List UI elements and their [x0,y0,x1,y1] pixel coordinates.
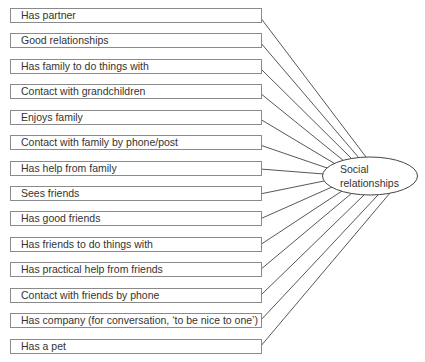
item-label: Has partner [21,9,76,22]
connector-line [260,145,330,169]
item-label: Has good friends [21,212,100,225]
item-label: Has friends to do things with [21,238,153,251]
item-label: Has help from family [21,162,117,175]
connector-line [260,191,342,245]
connector-line [260,181,324,194]
item-label: Sees friends [21,187,79,200]
item-box-has-partner: Has partner [10,8,262,23]
item-box-good-friends: Has good friends [10,211,262,226]
item-box-family-help: Has help from family [10,161,262,176]
connector-line [260,169,324,174]
item-box-grandchildren: Contact with grandchildren [10,84,262,99]
center-label-line2: relationships [340,177,399,190]
connector-line [260,193,352,270]
connector-line [260,68,352,159]
item-label: Contact with family by phone/post [21,136,178,149]
item-label: Has family to do things with [21,60,149,73]
item-label: Enjoys family [21,111,83,124]
item-box-family-phone: Contact with family by phone/post [10,135,262,150]
item-box-good-relationships: Good relationships [10,33,262,48]
connector-line [260,195,378,321]
item-box-company: Has company (for conversation, ‘to be ni… [10,313,262,328]
connector-line [260,195,364,296]
item-box-sees-friends: Sees friends [10,186,262,201]
item-label: Has a pet [21,340,66,353]
item-box-friends-help: Has practical help from friends [10,262,262,277]
item-box-friends-things: Has friends to do things with [10,237,262,252]
item-label: Contact with friends by phone [21,289,159,302]
item-label: Good relationships [21,34,109,47]
item-box-family-things: Has family to do things with [10,59,262,74]
item-box-enjoys-family: Enjoys family [10,110,262,125]
connector-line [260,42,359,158]
item-box-pet: Has a pet [10,339,262,354]
item-label: Has practical help from friends [21,263,163,276]
item-label: Has company (for conversation, ‘to be ni… [21,314,258,327]
item-box-friends-phone: Contact with friends by phone [10,288,262,303]
center-label-line1: Social [340,163,369,176]
item-label: Contact with grandchildren [21,85,145,98]
